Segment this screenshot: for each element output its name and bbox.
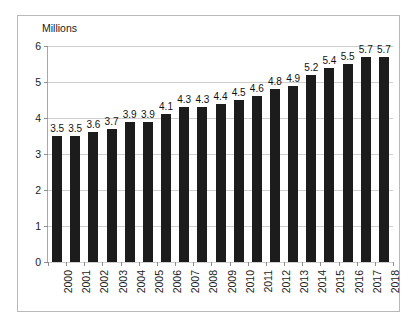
bar[interactable]: 3.7 bbox=[107, 129, 117, 262]
bar[interactable]: 4.6 bbox=[252, 96, 262, 262]
x-tick-label: 2007 bbox=[189, 270, 201, 293]
x-tick-label: 2013 bbox=[298, 270, 310, 293]
bar[interactable]: 3.9 bbox=[143, 122, 153, 262]
bar-value-label: 4.4 bbox=[214, 91, 228, 102]
bar[interactable]: 5.4 bbox=[324, 68, 334, 262]
bar[interactable]: 4.9 bbox=[288, 86, 298, 262]
bar-value-label: 4.3 bbox=[195, 94, 209, 105]
bar[interactable]: 4.3 bbox=[197, 107, 207, 262]
x-tick-mark bbox=[393, 262, 394, 266]
gridline bbox=[48, 46, 393, 47]
x-tick-mark bbox=[302, 262, 303, 266]
bar[interactable]: 5.5 bbox=[343, 64, 353, 262]
x-tick-label: 2000 bbox=[62, 270, 74, 293]
x-tick-label: 2004 bbox=[135, 270, 147, 293]
x-tick-mark bbox=[211, 262, 212, 266]
bar-value-label: 3.5 bbox=[68, 123, 82, 134]
bar-value-label: 3.6 bbox=[86, 119, 100, 130]
bar[interactable]: 3.9 bbox=[125, 122, 135, 262]
bar-value-label: 4.1 bbox=[159, 101, 173, 112]
bar-value-label: 3.9 bbox=[123, 109, 137, 120]
x-tick-mark bbox=[175, 262, 176, 266]
y-tick-label: 2 bbox=[35, 184, 41, 196]
x-tick-mark bbox=[157, 262, 158, 266]
bar-value-label: 5.5 bbox=[341, 51, 355, 62]
x-tick-mark bbox=[339, 262, 340, 266]
x-tick-mark bbox=[266, 262, 267, 266]
bar-chart-figure: Millions 0123456 3.53.53.63.73.93.94.14.… bbox=[17, 15, 400, 312]
x-tick-label: 2008 bbox=[207, 270, 219, 293]
x-tick-label: 2001 bbox=[80, 270, 92, 293]
x-tick-label: 2014 bbox=[316, 270, 328, 293]
x-tick-mark bbox=[66, 262, 67, 266]
y-tick-label: 5 bbox=[35, 76, 41, 88]
y-tick-label: 6 bbox=[35, 40, 41, 52]
bar-value-label: 3.7 bbox=[105, 116, 119, 127]
y-tick-label: 3 bbox=[35, 148, 41, 160]
x-tick-mark bbox=[48, 262, 49, 266]
plot-area: 0123456 3.53.53.63.73.93.94.14.34.34.44.… bbox=[47, 46, 393, 263]
gridline bbox=[48, 262, 393, 263]
x-tick-mark bbox=[375, 262, 376, 266]
x-tick-label: 2003 bbox=[117, 270, 129, 293]
bar[interactable]: 4.8 bbox=[270, 89, 280, 262]
x-tick-label: 2002 bbox=[98, 270, 110, 293]
y-tick-label: 4 bbox=[35, 112, 41, 124]
y-axis-unit-label: Millions bbox=[42, 22, 77, 34]
bar-value-label: 5.2 bbox=[304, 62, 318, 73]
x-tick-label: 2018 bbox=[389, 270, 401, 293]
x-tick-mark bbox=[284, 262, 285, 266]
bar[interactable]: 4.4 bbox=[216, 104, 226, 262]
bar[interactable]: 5.7 bbox=[361, 57, 371, 262]
x-tick-mark bbox=[121, 262, 122, 266]
x-tick-mark bbox=[102, 262, 103, 266]
x-tick-label: 2012 bbox=[280, 270, 292, 293]
bar[interactable]: 4.1 bbox=[161, 114, 171, 262]
bar-value-label: 5.7 bbox=[377, 44, 391, 55]
bar[interactable]: 5.7 bbox=[379, 57, 389, 262]
bar[interactable]: 3.5 bbox=[52, 136, 62, 262]
x-tick-mark bbox=[248, 262, 249, 266]
x-tick-mark bbox=[230, 262, 231, 266]
y-tick-label: 1 bbox=[35, 220, 41, 232]
x-tick-label: 2005 bbox=[153, 270, 165, 293]
y-tick-mark bbox=[44, 226, 48, 227]
bar[interactable]: 4.3 bbox=[179, 107, 189, 262]
bar-value-label: 4.6 bbox=[250, 83, 264, 94]
x-tick-mark bbox=[320, 262, 321, 266]
bar-value-label: 5.7 bbox=[359, 44, 373, 55]
bar-value-label: 4.9 bbox=[286, 73, 300, 84]
gridline bbox=[48, 82, 393, 83]
bar-value-label: 4.5 bbox=[232, 87, 246, 98]
x-tick-mark bbox=[139, 262, 140, 266]
y-tick-mark bbox=[44, 190, 48, 191]
bar-value-label: 3.5 bbox=[50, 123, 64, 134]
x-tick-label: 2016 bbox=[353, 270, 365, 293]
x-tick-label: 2006 bbox=[171, 270, 183, 293]
x-tick-mark bbox=[193, 262, 194, 266]
bar[interactable]: 3.5 bbox=[70, 136, 80, 262]
bar-value-label: 3.9 bbox=[141, 109, 155, 120]
x-tick-label: 2009 bbox=[226, 270, 238, 293]
y-tick-mark bbox=[44, 82, 48, 83]
bar-value-label: 5.4 bbox=[322, 55, 336, 66]
x-tick-label: 2017 bbox=[371, 270, 383, 293]
bar-value-label: 4.3 bbox=[177, 94, 191, 105]
x-tick-mark bbox=[357, 262, 358, 266]
bar[interactable]: 3.6 bbox=[88, 132, 98, 262]
x-tick-mark bbox=[84, 262, 85, 266]
x-tick-label: 2015 bbox=[334, 270, 346, 293]
y-tick-mark bbox=[44, 118, 48, 119]
bar-value-label: 4.8 bbox=[268, 76, 282, 87]
y-tick-mark bbox=[44, 46, 48, 47]
x-tick-label: 2011 bbox=[262, 270, 274, 293]
bar[interactable]: 4.5 bbox=[234, 100, 244, 262]
x-tick-label: 2010 bbox=[244, 270, 256, 293]
bar[interactable]: 5.2 bbox=[306, 75, 316, 262]
y-tick-mark bbox=[44, 154, 48, 155]
y-tick-label: 0 bbox=[35, 256, 41, 268]
